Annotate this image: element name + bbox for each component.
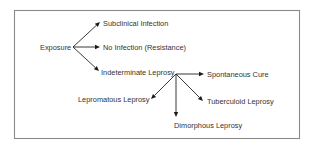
edge-exposure-to-no_infection — [73, 45, 100, 49]
edge-line — [176, 74, 199, 97]
edge-exposure-to-indeterminate — [73, 47, 99, 71]
edge-indeterminate-to-tuberculoid — [176, 74, 203, 101]
edge-indeterminate-to-lepromatous — [151, 74, 176, 99]
node-lepromatous-leprosy: Lepromatous Leprosy — [78, 95, 150, 104]
edge-indeterminate-to-spontaneous — [176, 72, 204, 76]
edge-indeterminate-to-dimorphous — [174, 74, 178, 117]
arrowhead-icon — [95, 45, 100, 49]
node-indeterminate-leprosy: Indeterminate Leprosy — [101, 68, 175, 77]
edge-line — [73, 25, 96, 47]
arrowhead-icon — [174, 112, 178, 117]
edge-exposure-to-subclinical — [73, 22, 100, 47]
node-spontaneous-cure: Spontaneous Cure — [207, 70, 269, 79]
node-tuberculoid-leprosy: Tuberculoid Leprosy — [207, 97, 274, 106]
arrowhead-icon — [199, 72, 204, 76]
leprosy-outcome-diagram: Exposure Subclinical Infection No Infect… — [0, 0, 310, 146]
edge-line — [73, 47, 95, 68]
node-dimorphous-leprosy: Dimorphous Leprosy — [174, 121, 242, 130]
node-exposure: Exposure — [40, 43, 71, 52]
edge-line — [155, 74, 176, 95]
node-no-infection: No Infection (Resistance) — [103, 43, 186, 52]
node-subclinical-infection: Subclinical Infection — [103, 19, 168, 28]
